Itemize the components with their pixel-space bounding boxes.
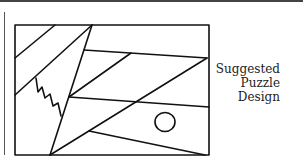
figure-caption: Suggested Puzzle Design: [212, 62, 280, 104]
puzzle-cut-line: [15, 25, 55, 58]
caption-line: Design: [212, 90, 280, 104]
circle-piece: [155, 113, 175, 132]
puzzle-cut-line: [84, 50, 207, 58]
puzzle-cut-line: [50, 58, 207, 155]
caption-line: Puzzle: [212, 76, 280, 90]
puzzle-cut-line: [69, 53, 131, 97]
zigzag-cut: [36, 78, 61, 116]
puzzle-cut-line: [89, 131, 205, 155]
puzzle-cut-line: [69, 97, 209, 107]
caption-line: Suggested: [212, 62, 280, 76]
